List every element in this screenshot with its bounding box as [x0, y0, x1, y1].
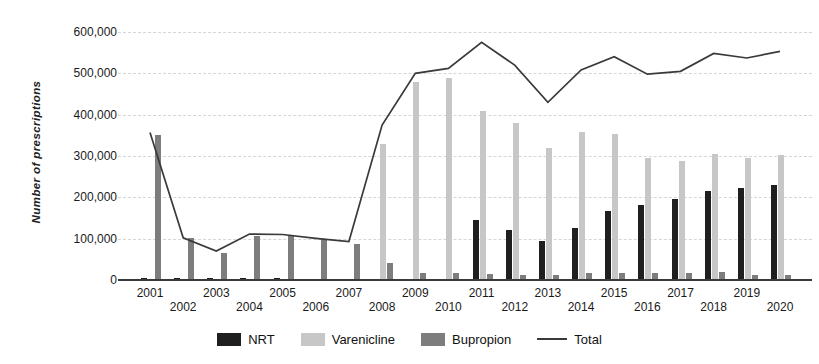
- x-tick-label-2015: 2015: [593, 286, 635, 300]
- legend-item-bupropion: Bupropion: [421, 332, 511, 347]
- y-axis-label: Number of prescriptions: [30, 52, 42, 252]
- legend-label-varenicline: Varenicline: [332, 332, 395, 347]
- x-tick-label-2006: 2006: [295, 300, 337, 314]
- y-tick-label-0: 0: [47, 273, 117, 287]
- legend-label-nrt: NRT: [248, 332, 274, 347]
- y-tick-label-100000: 100,000: [47, 232, 117, 246]
- legend-item-nrt: NRT: [217, 332, 274, 347]
- total-line-path: [150, 42, 780, 251]
- y-tick-label-200000: 200,000: [47, 190, 117, 204]
- total-line-swatch-icon: [537, 338, 567, 340]
- legend-item-total: Total: [537, 332, 601, 347]
- y-tick-label-500000: 500,000: [47, 66, 117, 80]
- legend-label-bupropion: Bupropion: [452, 332, 511, 347]
- x-tick-label-2001: 2001: [129, 286, 171, 300]
- y-tick-label-300000: 300,000: [47, 149, 117, 163]
- x-tick-label-2017: 2017: [660, 286, 702, 300]
- plot-area: 2001200220032004200520062007200820092010…: [118, 32, 812, 280]
- y-tick-label-600000: 600,000: [47, 25, 117, 39]
- x-tick-label-2010: 2010: [427, 300, 469, 314]
- x-tick-label-2007: 2007: [328, 286, 370, 300]
- x-tick-label-2019: 2019: [726, 286, 768, 300]
- x-tick-label-2020: 2020: [759, 300, 801, 314]
- legend-item-varenicline: Varenicline: [301, 332, 395, 347]
- y-tick-label-400000: 400,000: [47, 108, 117, 122]
- x-tick-label-2012: 2012: [494, 300, 536, 314]
- x-tick-label-2011: 2011: [461, 286, 503, 300]
- legend: NRT Varenicline Bupropion Total: [0, 328, 819, 350]
- x-tick-label-2016: 2016: [626, 300, 668, 314]
- x-axis-line: [118, 279, 812, 281]
- x-tick-label-2009: 2009: [394, 286, 436, 300]
- x-tick-label-2018: 2018: [693, 300, 735, 314]
- bupropion-swatch-icon: [421, 333, 445, 346]
- x-tick-label-2005: 2005: [262, 286, 304, 300]
- x-tick-label-2014: 2014: [560, 300, 602, 314]
- x-tick-label-2008: 2008: [361, 300, 403, 314]
- varenicline-swatch-icon: [301, 333, 325, 346]
- total-line: [118, 32, 812, 280]
- x-tick-label-2004: 2004: [228, 300, 270, 314]
- x-tick-label-2013: 2013: [527, 286, 569, 300]
- nrt-swatch-icon: [217, 333, 241, 346]
- prescriptions-chart: Number of prescriptions 2001200220032004…: [0, 0, 819, 364]
- legend-label-total: Total: [574, 332, 601, 347]
- x-tick-label-2003: 2003: [195, 286, 237, 300]
- x-tick-label-2002: 2002: [162, 300, 204, 314]
